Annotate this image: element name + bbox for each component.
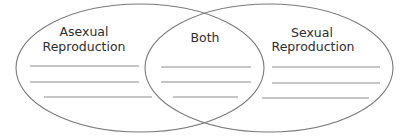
right-title-line-1: Sexual [291, 25, 333, 40]
venn-diagram: Asexual Reproduction Both Sexual Reprodu… [0, 0, 411, 138]
overlap-title: Both [190, 30, 219, 45]
left-ellipse [16, 4, 264, 132]
right-ellipse [145, 4, 393, 132]
left-title-line-1: Asexual [60, 24, 109, 39]
left-title-line-2: Reproduction [43, 39, 126, 54]
right-title-line-2: Reproduction [272, 39, 355, 54]
